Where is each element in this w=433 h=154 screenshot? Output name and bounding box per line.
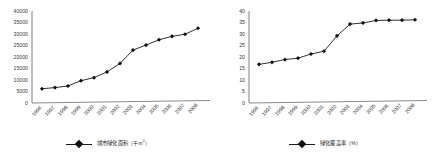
x-tick-label: 2006 (377, 102, 389, 115)
x-tick-label: 2002 (325, 103, 337, 116)
urban-green-area-plot: 0500010000150002000025000300003500040000… (0, 0, 216, 154)
y-tick-label: 15000 (14, 65, 29, 71)
x-tick-label: 1996 (247, 105, 259, 118)
x-axis-labels-right: 1996199719981999200020012002200320042005… (247, 102, 415, 117)
legend-label-right: 绿化覆盖率（%） (320, 141, 361, 146)
plot-line-left (40, 26, 200, 91)
plot-line-right (257, 18, 417, 67)
data-point-marker (374, 18, 378, 22)
x-tick-label: 2001 (312, 103, 324, 116)
data-point-marker (296, 56, 300, 60)
y-tick-label: 20000 (14, 54, 29, 60)
x-axis-labels-left: 1996199719981999200020012002200320042005… (30, 102, 198, 117)
y-tick-label: 5000 (16, 88, 28, 94)
x-tick-label: 2001 (95, 103, 107, 116)
y-tick-label: 5 (242, 88, 245, 94)
y-tick-label: 40 (239, 8, 245, 14)
x-tick-label: 2000 (299, 104, 311, 117)
x-tick-label: 1997 (260, 104, 272, 117)
data-point-marker (144, 43, 148, 47)
y-tick-label: 20 (239, 54, 245, 60)
x-tick-label: 2000 (82, 104, 94, 117)
legend-diamond-icon (289, 140, 315, 148)
legend-main-left: 城市绿化面积 (97, 140, 128, 146)
data-point-marker (53, 85, 57, 89)
x-tick-label: 1997 (43, 104, 55, 117)
green-coverage-rate-plot: 0510152025303540 19961997199819992000200… (217, 0, 433, 154)
y-axis-ticks-left: 0500010000150002000025000300003500040000 (14, 8, 210, 106)
legend-diamond-icon (66, 140, 92, 148)
x-tick-label: 2004 (351, 103, 363, 116)
legend-unit-left: （千m (128, 140, 143, 146)
data-point-marker (387, 18, 391, 22)
data-point-marker (157, 38, 161, 42)
data-point-marker (400, 18, 404, 22)
data-series-line (259, 20, 415, 65)
y-tick-label: 10 (239, 77, 245, 83)
x-tick-label: 1998 (273, 104, 285, 117)
x-tick-label: 2007 (390, 102, 402, 115)
x-tick-label: 2002 (108, 103, 120, 116)
y-tick-label: 35000 (14, 19, 29, 25)
legend-left: 城市绿化面积（千m2） (0, 140, 216, 148)
x-tick-label: 1999 (286, 104, 298, 117)
legend-right: 绿化覆盖率（%） (217, 140, 433, 148)
data-point-marker (361, 21, 365, 25)
x-tick-label: 2006 (160, 102, 172, 115)
y-tick-label: 25 (239, 42, 245, 48)
x-tick-label: 2003 (338, 103, 350, 116)
data-point-marker (413, 18, 417, 22)
data-point-marker (257, 62, 261, 66)
x-tick-label: 2004 (134, 103, 146, 116)
x-tick-label: 1999 (69, 104, 81, 117)
data-point-marker (79, 79, 83, 83)
x-tick-label: 2005 (364, 103, 376, 116)
y-tick-label: 35 (239, 19, 245, 25)
x-tick-label: 2007 (173, 102, 185, 115)
chart-green-coverage-rate: 0510152025303540 19961997199819992000200… (217, 0, 433, 154)
y-tick-label: 40000 (14, 8, 29, 14)
data-point-marker (170, 34, 174, 38)
data-point-marker (196, 26, 200, 30)
legend-tail-left: ） (145, 140, 150, 146)
data-point-marker (270, 60, 274, 64)
data-point-marker (66, 84, 70, 88)
legend-label-left: 城市绿化面积（千m2） (97, 141, 150, 146)
y-tick-label: 30 (239, 31, 245, 37)
y-tick-label: 0 (242, 100, 245, 106)
y-tick-label: 10000 (14, 77, 29, 83)
legend-main-right: 绿化覆盖率 (320, 140, 346, 146)
data-series-line (42, 28, 198, 88)
y-tick-label: 30000 (14, 31, 29, 37)
x-tick-label: 1996 (30, 105, 42, 118)
data-point-marker (309, 52, 313, 56)
y-tick-label: 0 (25, 100, 28, 106)
y-tick-label: 25000 (14, 42, 29, 48)
charts-page: 0500010000150002000025000300003500040000… (0, 0, 433, 154)
x-tick-label: 2008 (186, 102, 198, 115)
y-axis-ticks-right: 0510152025303540 (239, 8, 427, 106)
x-tick-label: 2003 (121, 103, 133, 116)
data-point-marker (92, 76, 96, 80)
x-tick-label: 2008 (403, 102, 415, 115)
data-point-marker (283, 57, 287, 61)
data-point-marker (183, 32, 187, 36)
legend-unit-right: （%） (346, 140, 361, 146)
x-tick-label: 1998 (56, 104, 68, 117)
y-tick-label: 15 (239, 65, 245, 71)
data-point-marker (40, 87, 44, 91)
chart-urban-green-area: 0500010000150002000025000300003500040000… (0, 0, 216, 154)
x-tick-label: 2005 (147, 103, 159, 116)
